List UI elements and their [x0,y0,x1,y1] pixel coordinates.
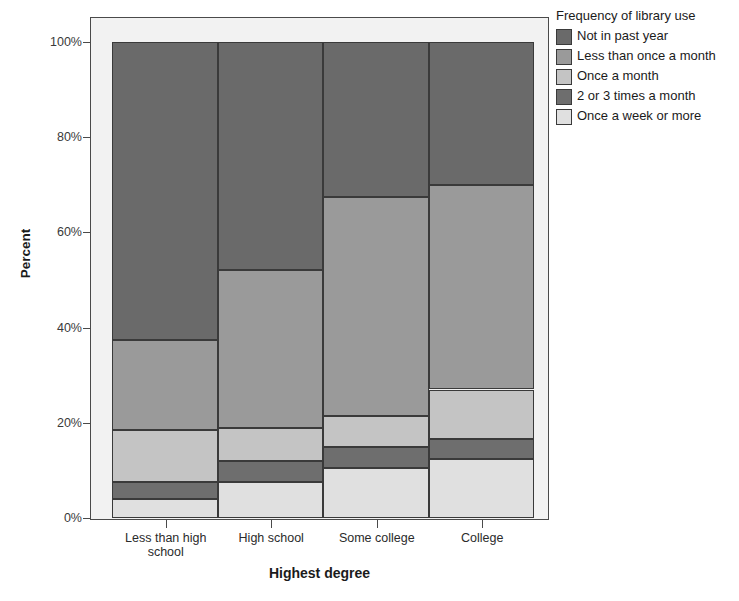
bar-segment[interactable] [323,42,429,197]
x-axis-tick-mark [271,520,272,528]
bar-segment[interactable] [218,270,324,427]
x-axis-tick-label-line: High school [211,531,331,545]
x-axis-tick-label-line: school [106,545,226,559]
bar-segment[interactable] [218,42,324,270]
legend-swatch-icon [556,69,572,85]
y-axis-title: Percent [18,199,33,309]
x-axis-tick-label: College [422,531,542,545]
bar-column[interactable] [324,42,430,518]
y-axis-tick-mark [83,328,90,329]
x-axis-title: Highest degree [90,565,549,581]
y-axis-tick-label: 40% [30,321,82,335]
bar-segment[interactable] [429,390,535,440]
plot-area [113,42,535,518]
bar-column[interactable] [113,42,219,518]
legend-swatch-icon [556,109,572,125]
legend-item-label: 2 or 3 times a month [577,88,696,103]
x-axis-tick-mark [482,520,483,528]
bar-segment[interactable] [323,416,429,447]
bar-segment[interactable] [429,185,535,390]
legend: Frequency of library use Not in past yea… [556,8,736,128]
bar-segment[interactable] [323,447,429,468]
y-axis-tick-label: 20% [30,416,82,430]
y-axis-tick-label: 0% [30,511,82,525]
bar-segment[interactable] [429,439,535,458]
bar-segment[interactable] [112,340,218,430]
legend-item-label: Once a week or more [577,108,701,123]
bar-segment[interactable] [218,428,324,461]
y-axis-tick-label: 80% [30,130,82,144]
bar-column[interactable] [430,42,536,518]
bar-segment[interactable] [323,468,429,518]
x-axis-tick-mark [166,520,167,528]
x-axis-tick-mark [377,520,378,528]
y-axis-tick-mark [83,137,90,138]
legend-item-label: Less than once a month [577,48,716,63]
x-axis-tick-label-line: Some college [317,531,437,545]
bar-segment[interactable] [112,42,218,340]
legend-items: Not in past yearLess than once a monthOn… [556,28,736,125]
x-axis-tick-label: Some college [317,531,437,545]
legend-item[interactable]: 2 or 3 times a month [556,88,736,105]
bar-segment[interactable] [218,482,324,518]
y-axis-tick-mark [83,42,90,43]
y-axis-tick-labels: 0%20%40%60%80%100% [26,0,82,601]
y-axis-tick-label: 100% [30,35,82,49]
chart-title [0,0,739,8]
bar-segment[interactable] [112,499,218,518]
bar-column[interactable] [219,42,325,518]
x-axis-tick-label: Less than highschool [106,531,226,559]
legend-swatch-icon [556,49,572,65]
legend-item[interactable]: Once a month [556,68,736,85]
y-axis-tick-mark [83,232,90,233]
bar-segment[interactable] [112,430,218,482]
legend-item[interactable]: Once a week or more [556,108,736,125]
bar-segment[interactable] [429,459,535,519]
stacked-bar-chart-figure: 0%20%40%60%80%100% Percent Less than hig… [0,0,739,601]
x-axis-tick-label-line: College [422,531,542,545]
legend-title: Frequency of library use [556,8,736,23]
x-axis-tick-label: High school [211,531,331,545]
legend-swatch-icon [556,89,572,105]
bar-segment[interactable] [429,42,535,185]
legend-item-label: Once a month [577,68,659,83]
legend-item[interactable]: Less than once a month [556,48,736,65]
y-axis-tick-mark [83,518,90,519]
legend-swatch-icon [556,29,572,45]
x-axis-tick-label-line: Less than high [106,531,226,545]
bar-segment[interactable] [323,197,429,416]
y-axis-tick-label: 60% [30,225,82,239]
bar-segment[interactable] [218,461,324,482]
bar-segment[interactable] [112,482,218,499]
legend-item[interactable]: Not in past year [556,28,736,45]
legend-item-label: Not in past year [577,28,668,43]
y-axis-tick-mark [83,423,90,424]
